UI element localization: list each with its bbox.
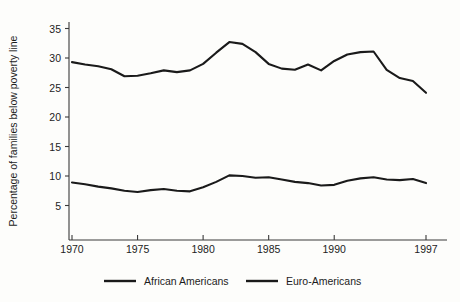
y-tick-group: 5101520253035: [49, 23, 69, 212]
series-line-2: [72, 175, 426, 192]
series-group: [72, 42, 426, 192]
y-tick-label: 35: [49, 23, 61, 35]
legend-label-1: African Americans: [144, 275, 229, 287]
y-tick-label: 5: [55, 200, 61, 212]
x-tick-label: 1975: [126, 243, 150, 255]
y-axis-title: Percentage of families below poverty lin…: [7, 35, 19, 226]
x-axis: 197019751980198519901997: [60, 235, 447, 255]
x-tick-label: 1980: [191, 243, 215, 255]
y-tick-label: 30: [49, 52, 61, 64]
x-tick-group: 197019751980198519901997: [60, 235, 438, 255]
y-tick-label: 25: [49, 82, 61, 94]
x-tick-label: 1990: [323, 243, 347, 255]
x-tick-label: 1970: [60, 243, 84, 255]
y-tick-label: 15: [49, 141, 61, 153]
series-line-1: [72, 42, 426, 93]
x-tick-label: 1997: [414, 243, 438, 255]
chart-canvas: Percentage of families below poverty lin…: [0, 0, 460, 302]
x-tick-label: 1985: [257, 243, 281, 255]
y-axis-title-group: Percentage of families below poverty lin…: [7, 35, 19, 226]
y-tick-label: 20: [49, 111, 61, 123]
y-tick-label: 10: [49, 170, 61, 182]
chart-legend: African AmericansEuro-Americans: [104, 275, 361, 287]
poverty-line-chart: Percentage of families below poverty lin…: [0, 0, 460, 302]
y-axis: 5101520253035: [49, 22, 69, 240]
legend-label-2: Euro-Americans: [286, 275, 361, 287]
